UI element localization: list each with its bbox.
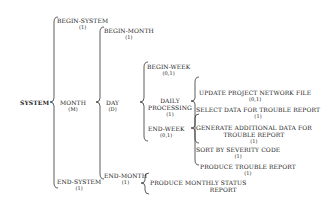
node-cardinality: (1)	[104, 34, 154, 40]
node-label: BEGIN-MONTH	[104, 27, 154, 34]
node-generate-additional-data: GENERATE ADDITIONAL DATA FOR TROUBLE REP…	[196, 124, 312, 144]
node-end-week: END-WEEK (0,1)	[148, 125, 184, 138]
node-cardinality: (1)	[148, 111, 192, 117]
node-cardinality: (M)	[60, 106, 86, 112]
node-label: SELECT DATA FOR TROUBLE REPORT	[196, 106, 320, 113]
node-label: TROUBLE REPORT	[196, 131, 312, 138]
node-label: BEGIN-SYSTEM	[57, 17, 108, 24]
node-cardinality: (1)	[200, 170, 296, 176]
node-cardinality: (1)	[196, 113, 320, 119]
node-label: UPDATE PROJECT NETWORK FILE	[199, 89, 311, 96]
node-cardinality: (1)	[196, 138, 312, 144]
node-label: GENERATE ADDITIONAL DATA FOR	[196, 124, 312, 131]
node-label: PROCESSING	[148, 104, 192, 111]
node-cardinality: (1)	[57, 24, 108, 30]
node-end-system: END-SYSTEM (1)	[57, 178, 101, 191]
node-label: SORT BY SEVERITY CODE	[196, 146, 280, 153]
node-update-project-network-file: UPDATE PROJECT NETWORK FILE (0,1)	[199, 89, 311, 102]
node-begin-month: BEGIN-MONTH (1)	[104, 27, 154, 40]
node-select-data: SELECT DATA FOR TROUBLE REPORT (1)	[196, 106, 320, 119]
node-daily-processing: DAILY PROCESSING (1)	[148, 97, 192, 117]
node-sort-by-severity: SORT BY SEVERITY CODE (1)	[196, 146, 280, 159]
node-month: MONTH (M)	[60, 99, 86, 112]
node-label: PRODUCE TROUBLE REPORT	[200, 163, 296, 170]
node-day: DAY (D)	[106, 99, 119, 112]
node-cardinality: (1)	[57, 185, 101, 191]
node-produce-trouble-report: PRODUCE TROUBLE REPORT (1)	[200, 163, 296, 176]
node-label: END-WEEK	[148, 125, 184, 132]
node-cardinality: (1)	[104, 179, 147, 185]
node-label: DAILY	[148, 97, 192, 104]
node-produce-monthly-status-report: PRODUCE MONTHLY STATUS REPORT	[150, 179, 246, 193]
node-label: END-SYSTEM	[57, 178, 101, 185]
node-label: BEGIN-WEEK	[147, 63, 190, 70]
node-cardinality: (1)	[196, 153, 280, 159]
node-cardinality: (0,1)	[147, 70, 190, 76]
node-label: SYSTEM	[20, 99, 49, 106]
node-cardinality: (0,1)	[148, 132, 184, 138]
node-cardinality: (0,1)	[199, 96, 311, 102]
node-begin-week: BEGIN-WEEK (0,1)	[147, 63, 190, 76]
node-label: END-MONTH	[104, 172, 147, 179]
node-label: REPORT	[150, 186, 246, 193]
node-system: SYSTEM	[20, 99, 49, 106]
node-label: PRODUCE MONTHLY STATUS	[150, 179, 246, 186]
node-cardinality: (D)	[106, 106, 119, 112]
node-end-month: END-MONTH (1)	[104, 172, 147, 185]
node-begin-system: BEGIN-SYSTEM (1)	[57, 17, 108, 30]
node-label: DAY	[106, 99, 119, 106]
node-label: MONTH	[60, 99, 86, 106]
